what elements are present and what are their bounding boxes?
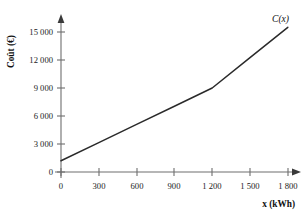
y-axis-group: 0 3 000 6 000 9 000 12 000 15 000 Coût (…	[6, 14, 65, 178]
y-tick-label-15000: 15 000	[29, 27, 53, 37]
y-tick-label-9000: 9 000	[34, 83, 53, 93]
x-tick-label-0: 0	[59, 181, 63, 191]
y-axis-arrow-icon	[58, 14, 65, 23]
x-axis-arrow-icon	[292, 169, 301, 176]
y-tick-label-3000: 3 000	[34, 139, 53, 149]
x-axis-group: 0 300 600 900 1 200 1 500 1 800 x (kWh)	[55, 168, 301, 210]
y-tick-label-12000: 12 000	[29, 55, 53, 65]
y-tick-label-0: 0	[49, 167, 53, 177]
cost-function-plot: 0 3 000 6 000 9 000 12 000 15 000 Coût (…	[0, 0, 308, 218]
x-tick-label-600: 600	[131, 181, 144, 191]
x-tick-label-1800: 1 800	[278, 181, 297, 191]
cost-curve-group: C(x)	[61, 13, 289, 161]
x-tick-label-1500: 1 500	[240, 181, 259, 191]
x-axis-title: x (kWh)	[262, 199, 295, 210]
x-tick-label-300: 300	[93, 181, 106, 191]
x-tick-label-900: 900	[168, 181, 181, 191]
x-tick-label-1200: 1 200	[202, 181, 221, 191]
chart-canvas: Coût en fonction de la consommation 0 3 …	[0, 0, 308, 218]
curve-label-cx: C(x)	[272, 13, 289, 25]
cost-curve-path	[61, 27, 288, 160]
y-tick-label-6000: 6 000	[34, 111, 53, 121]
y-axis-title: Coût (€)	[6, 35, 17, 68]
